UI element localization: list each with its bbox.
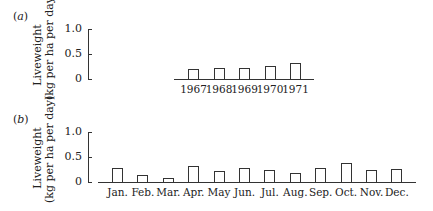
bar: [188, 166, 199, 182]
bar: [290, 173, 301, 182]
y-axis-title-line2: (kg per ha per day): [44, 10, 56, 100]
y-tick-label: 1.0: [58, 126, 82, 138]
y-axis-tick: [88, 132, 92, 133]
y-tick-label: 1.0: [58, 23, 82, 35]
bar: [188, 69, 199, 79]
bar: [391, 169, 402, 182]
bar: [315, 168, 326, 182]
panel-a-y-axis-title: Liveweight (kg per ha per day): [32, 10, 56, 100]
bar: [265, 66, 276, 79]
y-tick-label: 0.5: [58, 151, 82, 163]
paren-close: ): [24, 113, 28, 126]
panel-b-y-axis-title: Liveweight (kg per ha per day): [32, 113, 56, 203]
panel-a-label: (a): [13, 10, 28, 23]
y-axis-tick: [88, 79, 92, 80]
bar: [239, 168, 250, 183]
y-tick-label: 0.5: [58, 48, 82, 60]
x-axis-baseline: [98, 182, 416, 183]
panel-b-label: (b): [13, 113, 29, 126]
bar: [366, 170, 377, 182]
x-tick-label: Dec.: [382, 186, 412, 198]
y-axis-title-line2: (kg per ha per day): [44, 113, 56, 203]
y-axis-tick: [88, 157, 92, 158]
y-axis-tick: [88, 182, 92, 183]
y-tick-label: 0: [58, 73, 82, 85]
y-axis-tick: [88, 29, 92, 30]
paren-close: ): [24, 10, 28, 23]
bar: [112, 168, 123, 182]
y-axis-tick: [88, 54, 92, 55]
bar: [137, 175, 148, 182]
bar: [214, 171, 225, 182]
bar: [163, 178, 174, 182]
bar: [214, 68, 225, 79]
x-tick-label: 1971: [281, 83, 311, 95]
bar: [290, 63, 301, 79]
bar: [341, 163, 352, 182]
y-tick-label: 0: [58, 176, 82, 188]
x-axis-baseline: [174, 79, 314, 80]
bar: [264, 170, 275, 182]
bar: [239, 68, 250, 80]
